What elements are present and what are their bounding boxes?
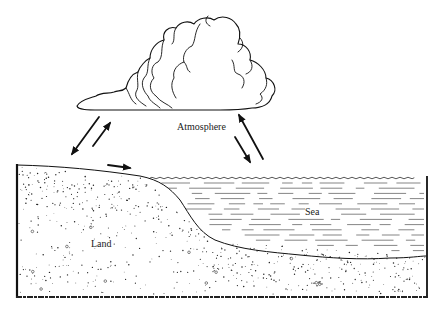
stipple-dot: [28, 177, 29, 178]
stipple-dot: [295, 257, 296, 258]
stipple-dot: [171, 259, 172, 260]
stipple-dot: [139, 191, 140, 192]
stipple-dot: [283, 255, 284, 256]
stipple-dot: [266, 287, 267, 288]
stipple-dot: [419, 288, 420, 289]
stipple-dot: [334, 289, 335, 290]
stipple-dot: [377, 253, 378, 254]
stipple-dot: [128, 198, 129, 199]
stipple-dot: [82, 250, 83, 251]
stipple-dot: [34, 175, 35, 176]
stipple-dot: [339, 267, 340, 268]
stipple-dot: [71, 184, 72, 185]
stipple-dot: [223, 276, 224, 277]
stipple-dot: [105, 185, 106, 186]
stipple-dot: [48, 176, 49, 177]
stipple-dot: [162, 206, 163, 207]
stipple-dot: [77, 184, 78, 185]
stipple-dot: [191, 230, 192, 231]
stipple-dot: [398, 275, 399, 276]
stipple-dot: [207, 240, 208, 241]
stipple-dot: [19, 174, 20, 175]
stipple-dot: [46, 206, 47, 207]
stipple-dot: [182, 230, 183, 231]
stipple-dot: [158, 216, 159, 217]
stipple-dot: [379, 263, 380, 264]
stipple-dot: [221, 247, 222, 248]
stipple-dot: [347, 262, 348, 263]
stipple-dot: [73, 203, 74, 204]
stipple-dot: [75, 283, 76, 284]
stipple-dot: [302, 289, 303, 290]
stipple-dot: [117, 193, 118, 194]
stipple-dot: [405, 261, 406, 262]
stipple-dot: [159, 256, 160, 257]
stipple-dot: [298, 285, 299, 286]
stipple-dot: [74, 185, 75, 186]
stipple-dot: [184, 220, 185, 221]
stipple-dot: [63, 255, 64, 256]
stipple-dot: [158, 218, 159, 219]
stipple-dot: [61, 225, 62, 226]
stipple-dot: [179, 228, 180, 229]
stipple-dot: [29, 269, 30, 270]
stipple-dot: [221, 248, 222, 249]
stipple-dot: [366, 256, 367, 257]
stipple-dot: [119, 196, 120, 197]
stipple-dot: [359, 274, 360, 275]
stipple-dot: [373, 264, 374, 265]
stipple-dot: [95, 286, 96, 287]
stipple-dot: [51, 246, 52, 247]
stipple-dot: [49, 291, 50, 292]
stipple-dot: [114, 197, 115, 198]
stipple-dot: [166, 237, 167, 238]
stipple-dot: [23, 184, 24, 185]
stipple-dot: [281, 246, 282, 247]
stipple-dot: [44, 182, 45, 183]
stipple-dot: [54, 180, 55, 181]
stipple-dot: [57, 221, 58, 222]
stipple-dot: [365, 275, 366, 276]
stipple-dot: [100, 233, 101, 234]
stipple-dot: [241, 280, 242, 281]
stipple-dot: [374, 262, 375, 263]
stipple-dot: [403, 267, 404, 268]
stipple-dot: [31, 279, 32, 280]
stipple-dot: [22, 174, 23, 175]
stipple-dot: [345, 270, 346, 271]
stipple-dot: [59, 172, 60, 173]
stipple-dot: [92, 209, 93, 210]
stipple-dot: [250, 269, 251, 270]
stipple-dot: [229, 267, 230, 268]
stipple-dot: [361, 280, 362, 281]
stipple-dot: [122, 227, 123, 228]
stipple-dot: [65, 196, 66, 197]
land-label: Land: [91, 238, 112, 249]
stipple-dot: [384, 268, 385, 269]
stipple-dot: [252, 261, 253, 262]
stipple-dot: [52, 203, 53, 204]
stipple-dot: [87, 272, 88, 273]
stipple-dot: [127, 200, 128, 201]
stipple-dot: [402, 269, 403, 270]
stipple-dot: [396, 273, 397, 274]
stipple-dot: [214, 270, 215, 271]
stipple-dot: [83, 184, 84, 185]
stipple-dot: [42, 279, 43, 280]
stipple-dot: [108, 236, 109, 237]
stipple-dot: [240, 274, 241, 275]
stipple-dot: [135, 283, 136, 284]
stipple-dot: [54, 213, 55, 214]
stipple-dot: [79, 203, 80, 204]
stipple-dot: [409, 279, 410, 280]
stipple-dot: [69, 253, 70, 254]
stipple-dot: [373, 272, 374, 273]
stipple-dot: [245, 254, 246, 255]
stipple-dot: [355, 279, 356, 280]
stipple-dot: [361, 282, 362, 283]
stipple-dot: [93, 226, 94, 227]
stipple-dot: [237, 285, 238, 286]
stipple-dot: [72, 254, 73, 255]
stipple-dot: [187, 241, 188, 242]
stipple-dot: [344, 264, 345, 265]
